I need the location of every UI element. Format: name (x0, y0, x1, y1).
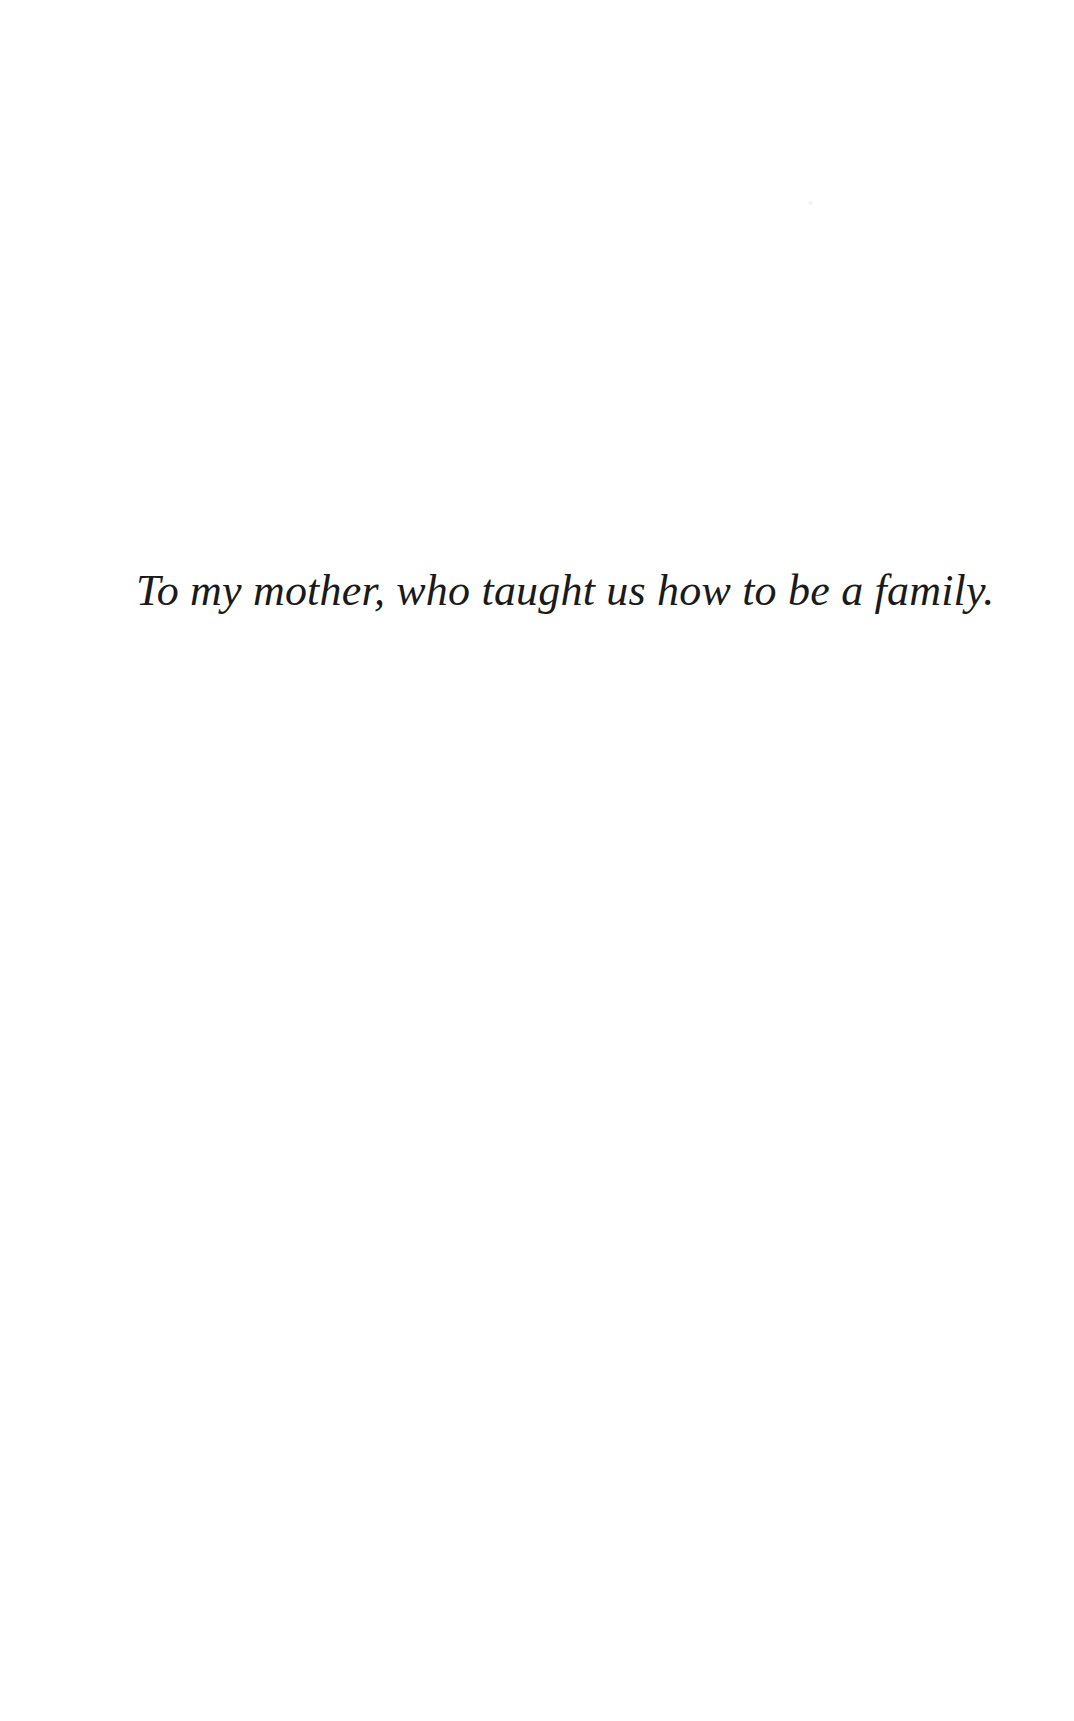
dedication-page: To my mother, who taught us how to be a … (0, 0, 1074, 1721)
dedication-text: To my mother, who taught us how to be a … (136, 564, 836, 618)
dedication-block: To my mother, who taught us how to be a … (0, 0, 1074, 1721)
